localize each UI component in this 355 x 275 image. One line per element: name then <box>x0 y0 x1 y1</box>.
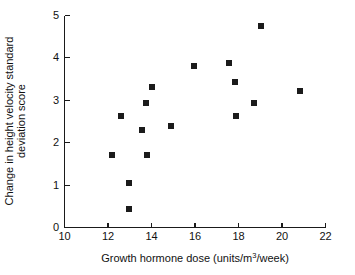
x-tick-label-20: 20 <box>276 230 288 242</box>
data-point <box>126 180 132 186</box>
x-tick-label-16: 16 <box>189 230 201 242</box>
data-point <box>258 23 264 29</box>
y-axis-title: Change in height velocity standard devia… <box>3 37 27 206</box>
x-tick-label-10: 10 <box>58 230 70 242</box>
y-axis-title-line2: deviation score <box>15 84 27 158</box>
data-point <box>139 127 145 133</box>
data-point <box>149 84 155 90</box>
scatter-plot-figure: 5 4 3 2 1 0 10 12 14 16 18 20 22 Growth … <box>0 0 355 275</box>
y-axis-tick-labels: 5 4 3 2 1 0 <box>53 9 59 233</box>
x-axis-ticks <box>108 223 326 228</box>
data-point <box>118 113 124 119</box>
data-point <box>168 123 174 129</box>
x-tick-label-22: 22 <box>319 230 331 242</box>
x-axis-title-after: /week) <box>256 252 288 264</box>
data-point <box>232 79 238 85</box>
y-tick-label-2: 2 <box>53 136 59 148</box>
data-point-group <box>109 23 303 212</box>
data-point <box>226 60 232 66</box>
x-axis-title: Growth hormone dose (units/m3/week) <box>101 251 289 264</box>
y-axis-title-line1: Change in height velocity standard <box>3 37 15 206</box>
data-point <box>191 63 197 69</box>
x-tick-label-14: 14 <box>145 230 157 242</box>
axis-lines <box>65 16 326 228</box>
y-tick-label-5: 5 <box>53 9 59 21</box>
plot-canvas: 5 4 3 2 1 0 10 12 14 16 18 20 22 Growth … <box>0 0 355 275</box>
y-tick-label-3: 3 <box>53 94 59 106</box>
data-point <box>144 152 150 158</box>
data-point <box>233 113 239 119</box>
data-point <box>126 206 132 212</box>
y-axis-ticks <box>65 16 70 186</box>
x-tick-label-18: 18 <box>232 230 244 242</box>
data-point <box>109 152 115 158</box>
data-point <box>143 100 149 106</box>
data-point <box>251 100 257 106</box>
y-tick-label-1: 1 <box>53 179 59 191</box>
x-axis-title-before: Growth hormone dose (units/m <box>101 252 252 264</box>
x-tick-label-12: 12 <box>102 230 114 242</box>
y-tick-label-4: 4 <box>53 51 59 63</box>
x-axis-tick-labels: 10 12 14 16 18 20 22 <box>58 230 331 242</box>
data-point <box>297 88 303 94</box>
